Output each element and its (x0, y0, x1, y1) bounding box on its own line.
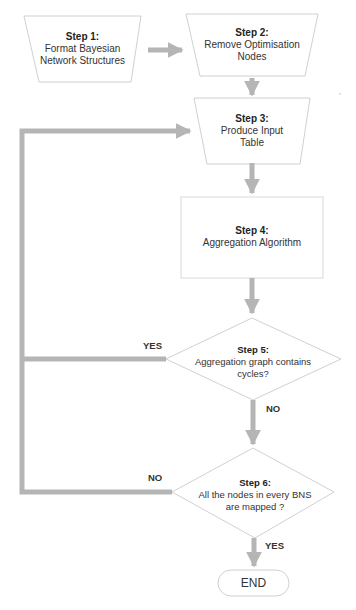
step5-yes-label: YES (143, 340, 162, 351)
step6-line2: are mapped ? (180, 501, 330, 513)
step2-line2: Nodes (195, 51, 309, 63)
step6-title: Step 6: (180, 477, 330, 489)
step3-line1: Produce Input (200, 125, 304, 137)
step5-title: Step 5: (180, 344, 326, 356)
step3-line2: Table (200, 137, 304, 149)
end-label: END (218, 576, 289, 590)
step6-no-label: NO (148, 472, 162, 483)
step1-label: Step 1: Format Bayesian Network Structur… (30, 31, 135, 67)
stray-speck (339, 93, 341, 95)
step5-label: Step 5: Aggregation graph contains cycle… (180, 344, 326, 380)
step1-title: Step 1: (30, 31, 135, 43)
step4-label: Step 4: Aggregation Algorithm (181, 225, 323, 249)
loop-line-step6-no (22, 131, 190, 492)
step6-yes-label: YES (265, 540, 284, 551)
flowchart-canvas (0, 0, 356, 610)
step4-title: Step 4: (181, 225, 323, 237)
step5-no-label: NO (266, 403, 280, 414)
step6-line1: All the nodes in every BNS (180, 489, 330, 501)
step2-line1: Remove Optimisation (195, 39, 309, 51)
step3-label: Step 3: Produce Input Table (200, 113, 304, 149)
step5-line2: cycles? (180, 368, 326, 380)
step4-line1: Aggregation Algorithm (181, 237, 323, 249)
step3-title: Step 3: (200, 113, 304, 125)
step5-line1: Aggregation graph contains (180, 356, 326, 368)
step1-line2: Network Structures (30, 55, 135, 67)
step2-title: Step 2: (195, 27, 309, 39)
step1-line1: Format Bayesian (30, 43, 135, 55)
step2-label: Step 2: Remove Optimisation Nodes (195, 27, 309, 63)
step6-label: Step 6: All the nodes in every BNS are m… (180, 477, 330, 513)
